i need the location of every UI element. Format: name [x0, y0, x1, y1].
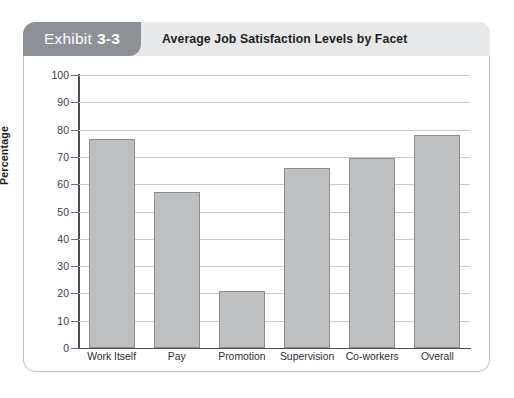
x-axis-labels: Work ItselfPayPromotionSupervisionCo-wor…: [79, 351, 470, 371]
bar: [414, 135, 460, 348]
x-axis-category-label: Work Itself: [87, 351, 136, 362]
y-axis-tick-label: 10: [39, 315, 69, 327]
y-axis-tick: [71, 348, 79, 349]
y-axis-tick: [71, 75, 79, 76]
exhibit-header: Exhibit 3-3 Average Job Satisfaction Lev…: [23, 22, 490, 56]
y-axis-title: Percentage: [0, 126, 10, 185]
bar: [154, 192, 200, 348]
gridline: [79, 321, 470, 322]
y-axis-tick-label: 100: [39, 69, 69, 81]
y-axis-tick: [71, 130, 79, 131]
gridline: [79, 75, 470, 76]
x-axis-category-label: Promotion: [218, 351, 265, 362]
y-axis-tick: [71, 102, 79, 103]
y-axis-tick-label: 0: [39, 342, 69, 354]
y-axis-tick-label: 40: [39, 233, 69, 245]
exhibit-title: Average Job Satisfaction Levels by Facet: [162, 32, 407, 46]
x-axis-category-label: Co-workers: [346, 351, 399, 362]
bar: [89, 139, 135, 348]
gridline: [79, 293, 470, 294]
x-axis-category-label: Pay: [168, 351, 186, 362]
gridline: [79, 184, 470, 185]
bar: [349, 158, 395, 348]
y-axis-tick-label: 30: [39, 260, 69, 272]
y-axis-tick: [71, 212, 79, 213]
y-axis-tick: [71, 293, 79, 294]
y-axis-tick: [71, 184, 79, 185]
gridline: [79, 239, 470, 240]
gridline: [79, 130, 470, 131]
y-axis-tick-label: 20: [39, 287, 69, 299]
y-axis-tick: [71, 321, 79, 322]
y-axis-tick-label: 90: [39, 96, 69, 108]
y-axis-labels: 0102030405060708090100: [33, 0, 69, 398]
y-axis-tick-label: 70: [39, 151, 69, 163]
gridline: [79, 266, 470, 267]
y-axis-tick-label: 60: [39, 178, 69, 190]
x-axis-category-label: Overall: [421, 351, 454, 362]
y-axis-tick: [71, 266, 79, 267]
bar: [284, 168, 330, 348]
gridline: [79, 212, 470, 213]
gridline: [79, 102, 470, 103]
bar: [219, 291, 265, 348]
y-axis-tick-label: 50: [39, 206, 69, 218]
y-axis-tick: [71, 239, 79, 240]
plot-area: [79, 75, 470, 348]
x-axis-category-label: Supervision: [280, 351, 334, 362]
gridline: [79, 157, 470, 158]
exhibit-number: 3-3: [97, 30, 120, 48]
y-axis-tick-label: 80: [39, 124, 69, 136]
y-axis-tick: [71, 157, 79, 158]
